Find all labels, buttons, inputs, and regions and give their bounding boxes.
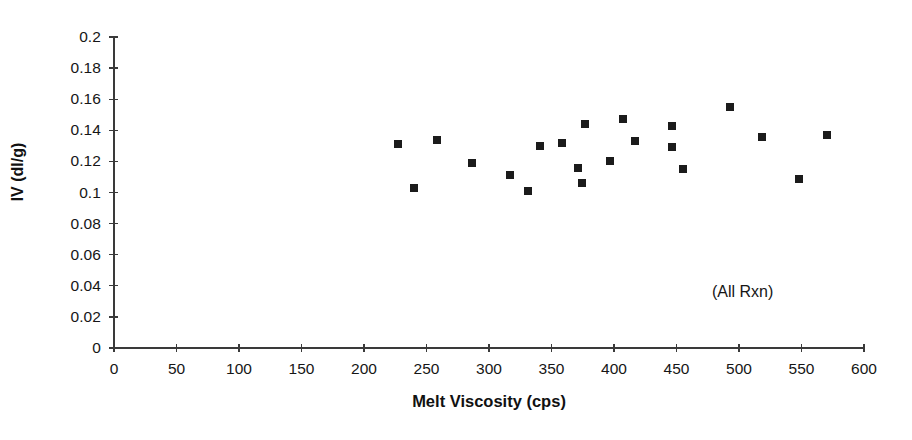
y-axis-tick-label: 0.18 bbox=[0, 60, 101, 76]
y-axis-tick-label-text: 0.02 bbox=[70, 309, 101, 325]
y-axis-tick-label-text: 0.2 bbox=[79, 29, 101, 45]
x-axis-tick-label: 50 bbox=[168, 361, 185, 377]
data-point-marker bbox=[394, 140, 402, 148]
plot-annotation: (All Rxn) bbox=[712, 283, 773, 301]
data-point-marker bbox=[668, 143, 676, 151]
x-axis-tick-label: 100 bbox=[226, 361, 252, 377]
data-point-marker bbox=[558, 139, 566, 147]
data-point-marker bbox=[679, 165, 687, 173]
y-axis-tick-label: 0 bbox=[0, 340, 101, 356]
y-axis-tick-label-text: 0 bbox=[92, 340, 101, 356]
y-axis-tick-label-text: 0.16 bbox=[70, 91, 101, 107]
x-axis-tick-label: 0 bbox=[110, 361, 119, 377]
x-axis-tick-label: 600 bbox=[851, 361, 877, 377]
data-point-marker bbox=[574, 164, 582, 172]
data-point-marker bbox=[606, 157, 614, 165]
y-axis-tick-label-text: 0.14 bbox=[70, 122, 101, 138]
y-axis-tick-label: 0.04 bbox=[0, 278, 101, 294]
y-axis-tick-label-text: 0.06 bbox=[70, 247, 101, 263]
y-axis-tick-label: 0.02 bbox=[0, 309, 101, 325]
data-point-marker bbox=[823, 131, 831, 139]
data-point-marker bbox=[506, 171, 514, 179]
y-axis-tick-label-text: 0.04 bbox=[70, 278, 101, 294]
data-point-marker bbox=[631, 137, 639, 145]
y-axis-tick-label-text: 0.12 bbox=[70, 153, 101, 169]
data-point-marker bbox=[668, 122, 676, 130]
y-axis-title: IV (dl/g) bbox=[9, 92, 27, 252]
data-point-marker bbox=[581, 120, 589, 128]
x-axis-title: Melt Viscosity (cps) bbox=[114, 392, 864, 411]
plot-data-area bbox=[114, 37, 864, 348]
x-axis-tick-label: 300 bbox=[476, 361, 502, 377]
data-point-marker bbox=[433, 136, 441, 144]
data-point-marker bbox=[536, 142, 544, 150]
x-axis-tick-label: 200 bbox=[351, 361, 377, 377]
data-point-marker bbox=[726, 103, 734, 111]
y-axis-tick-label-text: 0.1 bbox=[79, 185, 101, 201]
data-point-marker bbox=[619, 115, 627, 123]
x-axis-tick-label: 400 bbox=[601, 361, 627, 377]
data-point-marker bbox=[468, 159, 476, 167]
data-point-marker bbox=[795, 175, 803, 183]
x-axis-tick-label: 350 bbox=[539, 361, 565, 377]
scatter-plot-figure: 00.020.040.060.080.10.120.140.160.180.2 … bbox=[0, 0, 912, 440]
data-point-marker bbox=[758, 133, 766, 141]
x-axis-tick-label: 500 bbox=[726, 361, 752, 377]
x-axis-tick-label: 150 bbox=[289, 361, 315, 377]
y-axis-tick-label-text: 0.08 bbox=[70, 216, 101, 232]
y-axis-tick-label-text: 0.18 bbox=[70, 60, 101, 76]
y-axis-tick-label: 0.2 bbox=[0, 29, 101, 45]
x-axis-tick-label: 250 bbox=[414, 361, 440, 377]
x-axis-tick-label: 450 bbox=[664, 361, 690, 377]
data-point-marker bbox=[524, 187, 532, 195]
x-axis-tick-label: 550 bbox=[789, 361, 815, 377]
data-point-marker bbox=[410, 184, 418, 192]
data-point-marker bbox=[578, 179, 586, 187]
